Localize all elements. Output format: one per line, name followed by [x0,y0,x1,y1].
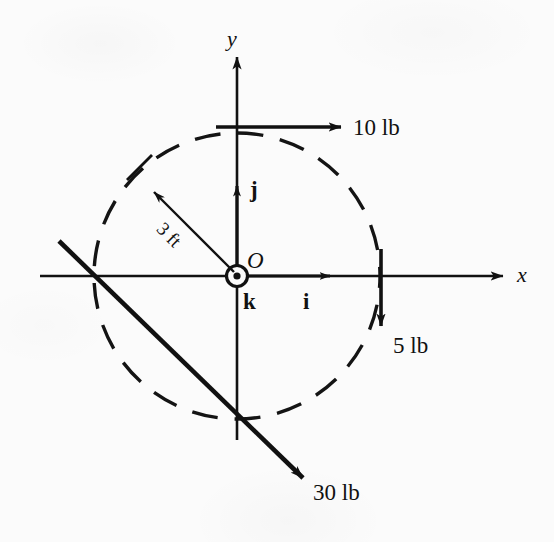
force-30lb-label: 30 lb [313,481,360,504]
unit-vector-k-label: k [243,290,256,313]
unit-vector-k-dot-icon [233,272,240,279]
force-5lb-label: 5 lb [393,334,428,357]
x-axis-label: x [517,264,527,286]
unit-vector-i-label: i [303,290,309,313]
figure-canvas: y x O j i k 3 ft 10 lb 5 lb 30 lb [0,0,554,542]
y-axis-label: y [227,28,237,50]
unit-vector-j-label: j [250,178,258,201]
origin-label: O [247,249,264,272]
radius-dimension-tick [127,155,152,180]
diagram-svg [0,0,554,542]
force-10lb-label: 10 lb [353,116,400,139]
